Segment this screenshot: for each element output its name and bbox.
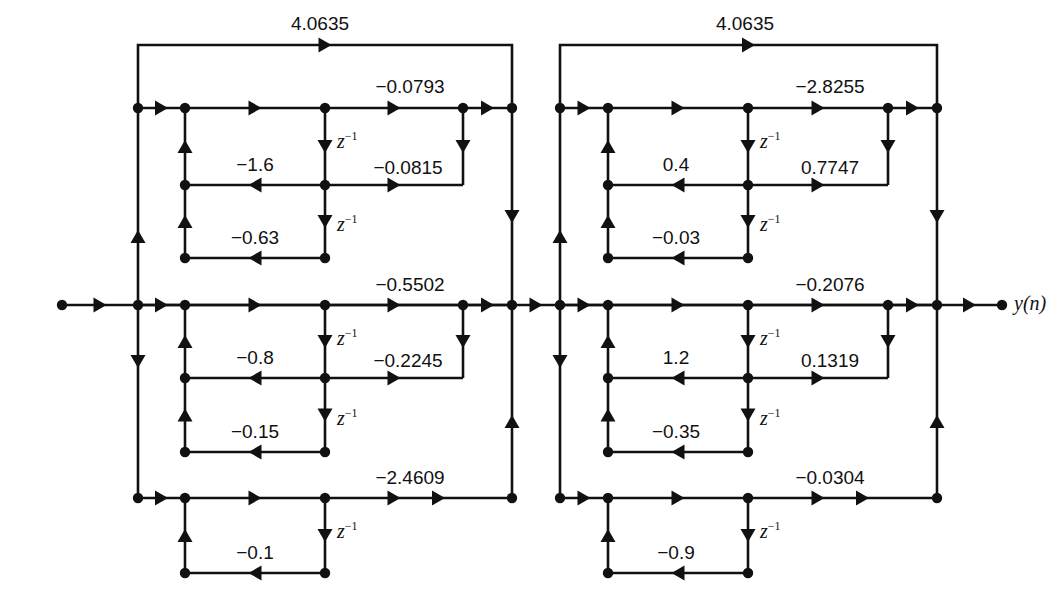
s2-top-arrow-in [578, 101, 591, 116]
s2-delay-5-z-inverse-label: z−1 [760, 520, 781, 541]
s2-mid-delay-1-arrow [741, 335, 756, 348]
s1-right-bus-node-0 [507, 103, 517, 113]
s1-top-arrow-in [155, 101, 168, 116]
s1-top-node-tap [320, 103, 330, 113]
s2-bot-arrow-ff [812, 491, 825, 506]
s2-bot-up-1-arrow [601, 529, 616, 542]
s2-mid-node-tap-1 [743, 373, 753, 383]
s2-top-arrow-out [906, 101, 919, 116]
s2-top-node-fb-2 [603, 253, 613, 263]
s2-bot-node-in [603, 493, 613, 503]
s2-top-ladder-up-arrow [881, 140, 896, 153]
s1-lattice-k1: −1.6 [236, 155, 274, 174]
s2-top-arrow-ff [812, 101, 825, 116]
s2-bot-node-fb-1 [603, 568, 613, 578]
s2-top-node-tap-2 [743, 253, 753, 263]
s2-left-bus-node-1 [555, 300, 565, 310]
arrow-section-join [530, 298, 543, 313]
s1-lattice-k5: −0.1 [236, 543, 274, 562]
s2-bot-arrow-in [578, 491, 591, 506]
s1-bot-arrow-out [432, 491, 445, 506]
s2-lattice-k2: −0.03 [652, 228, 700, 247]
s2-arrow-right-bus-down [930, 210, 945, 223]
s2-arrow-left-bus-down [553, 355, 568, 368]
s2-mid-up-1-arrow [601, 335, 616, 348]
s1-top-up-2-arrow [178, 215, 193, 228]
s2-delay-3-z-inverse-label: z−1 [760, 327, 781, 348]
s1-arrow-left-bus-up [131, 230, 146, 243]
s2-ff-bot-gain: −0.0304 [795, 468, 864, 487]
s1-right-bus-node-2 [507, 493, 517, 503]
s1-top-arrow-ff [388, 101, 401, 116]
s2-right-bus-node-2 [932, 493, 942, 503]
s1-mid-arrow-ff [388, 298, 401, 313]
s1-mid-node-tap-2 [320, 447, 330, 457]
s2-top-rail [560, 45, 937, 108]
node-dot-layer [57, 103, 1007, 578]
s2-tap-gain-2: 0.1319 [801, 351, 859, 370]
s2-mid-ladder-arrow [812, 371, 825, 386]
s2-top-delay-2-arrow [741, 215, 756, 228]
s1-bot-node-tap-1 [320, 568, 330, 578]
s1-mid-ladder-arrow [388, 371, 401, 386]
s1-left-bus-node-0 [133, 103, 143, 113]
s2-mid-fb-1-arrow [672, 371, 685, 386]
s1-mid-node-tap [320, 300, 330, 310]
s1-bot-delay-1-arrow [318, 529, 333, 542]
s2-bot-arrow-out [856, 491, 869, 506]
output-terminal-dot [997, 300, 1007, 310]
s2-mid-node-fb-2 [603, 447, 613, 457]
s2-tap-gain-1: 0.7747 [801, 158, 859, 177]
s1-mid-ladder-up-arrow [456, 335, 471, 348]
s1-mid-arrow-fwd [249, 298, 262, 313]
s1-bot-up-1-arrow [178, 529, 193, 542]
input-terminal-dot [57, 300, 67, 310]
s1-top-ladder-arrow [388, 178, 401, 193]
s2-bot-node-tap [743, 493, 753, 503]
s2-top-node-tap [743, 103, 753, 113]
s1-lattice-k2: −0.63 [231, 228, 279, 247]
s1-top-fb-2-arrow [249, 251, 262, 266]
s1-mid-node-return [458, 300, 468, 310]
s1-delay-3-z-inverse-label: z−1 [337, 327, 358, 348]
arrow-input [94, 298, 107, 313]
s2-delay-4-z-inverse-label: z−1 [760, 407, 781, 428]
s2-arrow-right-bus-up [930, 415, 945, 428]
s1-arrow-right-bus-down [505, 210, 520, 223]
s1-left-bus-node-1 [133, 300, 143, 310]
s2-ff-mid-gain: −0.2076 [795, 275, 864, 294]
s1-delay-5-z-inverse-label: z−1 [337, 520, 358, 541]
s2-arrow-left-bus-up [553, 230, 568, 243]
s2-top-up-1-arrow [601, 140, 616, 153]
s1-top-node-in [180, 103, 190, 113]
s2-bot-node-tap-1 [743, 568, 753, 578]
s1-bot-arrow-fwd [249, 491, 262, 506]
s2-mid-arrow-ff [812, 298, 825, 313]
s2-right-bus-node-0 [932, 103, 942, 113]
s2-top-node-in [603, 103, 613, 113]
s2-left-bus-node-0 [555, 103, 565, 113]
s2-lattice-k4: −0.35 [652, 422, 700, 441]
s2-top-node-tap-1 [743, 180, 753, 190]
s2-mid-node-fb-1 [603, 373, 613, 383]
s2-mid-node-tap-2 [743, 447, 753, 457]
signal-flow-diagram: y(n)4.0635−0.0793−0.5502−2.4609−0.0815−0… [0, 0, 1062, 599]
s1-tap-gain-1: −0.0815 [373, 158, 442, 177]
s1-mid-node-tap-1 [320, 373, 330, 383]
s2-lattice-k3: 1.2 [663, 348, 689, 367]
s2-mid-node-tap [743, 300, 753, 310]
s2-arrow-top-rail [742, 38, 755, 53]
s1-bot-fb-1-arrow [249, 566, 262, 581]
s2-bot-delay-1-arrow [741, 529, 756, 542]
s1-delay-4-z-inverse-label: z−1 [337, 407, 358, 428]
s1-top-ladder-up-arrow [456, 140, 471, 153]
s1-mid-arrow-in [155, 298, 168, 313]
s2-lattice-k1: 0.4 [663, 155, 689, 174]
s1-ff-mid-gain: −0.5502 [375, 275, 444, 294]
s1-ff-top-gain: −0.0793 [375, 77, 444, 96]
s1-arrow-top-rail [319, 38, 332, 53]
s1-top-node-fb-2 [180, 253, 190, 263]
s1-mid-up-1-arrow [178, 335, 193, 348]
s1-right-bus-node-1 [507, 300, 517, 310]
s1-bot-arrow-in [155, 491, 168, 506]
